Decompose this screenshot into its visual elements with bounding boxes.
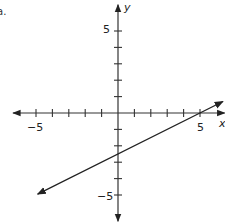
x-tick-label-5: 5	[197, 122, 204, 133]
x-axis-label: x	[219, 118, 225, 129]
line-series	[38, 102, 223, 195]
y-axis-label: y	[124, 2, 131, 13]
data-line	[38, 102, 223, 195]
y-tick-label-neg5: −5	[97, 191, 113, 202]
x-tick-label-neg5: −5	[27, 122, 43, 133]
axes	[13, 5, 225, 221]
y-tick-label-5: 5	[103, 24, 110, 35]
